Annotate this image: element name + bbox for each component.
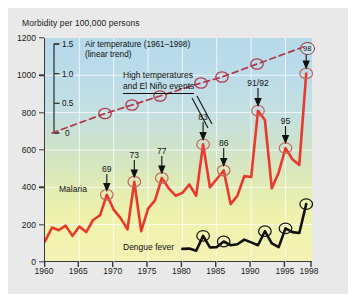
annotation-95: 95	[281, 116, 290, 126]
annotation-86: 86	[219, 138, 228, 148]
malaria-line	[45, 74, 306, 242]
series-label-dengue: Dengue fever	[123, 242, 174, 252]
secondary-axis-bracket	[54, 44, 60, 133]
annotation-98: 98	[300, 42, 315, 55]
annotation-73: 73	[130, 150, 139, 160]
x-tick-marks	[44, 262, 314, 268]
y-tick-label-1200: 1200	[17, 33, 36, 43]
callout-line2: and El Niño events	[123, 81, 194, 92]
plot-area: 1.5 1.0 0.5 0 Air temperature (1961–1998…	[44, 38, 312, 262]
y-tick-label-1000: 1000	[17, 70, 36, 80]
y-tick-label-600: 600	[22, 145, 36, 155]
annotation-69: 69	[102, 164, 111, 174]
chart-page: Morbidity per 100,000 persons 1200 1000 …	[0, 0, 356, 302]
temp-tick-label-1-5: 1.5	[62, 40, 73, 49]
y-tick-label-800: 800	[22, 108, 36, 118]
annotation-83: 83	[198, 112, 207, 122]
callout-line1: High temperatures	[123, 70, 194, 81]
y-tick-label-200: 200	[22, 220, 36, 230]
annotation-77: 77	[157, 146, 166, 156]
series-label-malaria: Malaria	[59, 184, 87, 194]
temperature-legend-line2: (linear trend)	[85, 50, 190, 60]
temp-tick-label-0: 0	[65, 129, 70, 138]
temperature-legend-line1: Air temperature (1961–1998)	[85, 40, 190, 50]
callout-el-nino: High temperatures and El Niño events	[123, 70, 194, 94]
y-axis-primary: 1200 1000 800 600 400 200 0	[0, 38, 44, 262]
dengue-peak-markers	[197, 199, 313, 247]
annotation-91-92: 91/92	[247, 78, 268, 88]
temperature-legend-label: Air temperature (1961–1998) (linear tren…	[85, 40, 190, 61]
temp-tick-label-0-5: 0.5	[62, 99, 73, 108]
dengue-line	[182, 204, 306, 251]
temp-tick-label-1-0: 1.0	[62, 69, 73, 78]
y-tick-label-400: 400	[22, 182, 36, 192]
page-title: Morbidity per 100,000 persons	[22, 18, 140, 28]
